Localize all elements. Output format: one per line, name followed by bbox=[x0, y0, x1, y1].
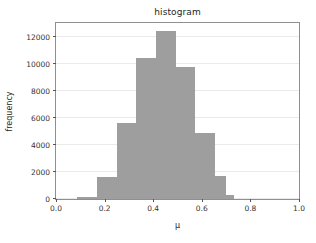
y-tick-mark bbox=[53, 36, 56, 37]
x-tick-mark bbox=[105, 199, 106, 202]
x-tick-mark bbox=[250, 199, 251, 202]
y-axis-label-text: frequency bbox=[5, 91, 14, 131]
histogram-bar bbox=[97, 177, 117, 199]
x-tick-label: 0.8 bbox=[244, 204, 256, 213]
y-tick-label: 8000 bbox=[31, 86, 50, 95]
x-tick-mark bbox=[153, 199, 154, 202]
y-tick-mark bbox=[53, 90, 56, 91]
chart-title: histogram bbox=[55, 7, 300, 17]
y-axis-label: frequency bbox=[2, 22, 16, 200]
histogram-figure: histogram frequency 02000400060008000100… bbox=[0, 0, 316, 243]
y-tick-mark bbox=[53, 63, 56, 64]
y-tick-label: 6000 bbox=[31, 113, 50, 122]
x-tick-label: 0.2 bbox=[99, 204, 111, 213]
x-tick-label: 0.6 bbox=[196, 204, 208, 213]
y-tick-label: 10000 bbox=[26, 59, 50, 68]
plot-inner bbox=[56, 23, 299, 199]
y-tick-mark bbox=[53, 144, 56, 145]
histogram-bar bbox=[156, 31, 176, 199]
y-tick-label: 0 bbox=[45, 195, 50, 204]
y-tick-label: 2000 bbox=[31, 167, 50, 176]
x-tick-mark bbox=[202, 199, 203, 202]
histogram-bar bbox=[226, 195, 234, 199]
gridline-y bbox=[56, 36, 299, 37]
histogram-bar bbox=[77, 197, 97, 199]
y-tick-label: 4000 bbox=[31, 140, 50, 149]
x-tick-label: 1.0 bbox=[293, 204, 305, 213]
histogram-bar bbox=[195, 133, 214, 199]
x-tick-mark bbox=[56, 199, 57, 202]
histogram-bar bbox=[215, 176, 226, 199]
y-tick-mark bbox=[53, 117, 56, 118]
y-tick-label: 12000 bbox=[26, 32, 50, 41]
x-tick-label: 0.4 bbox=[147, 204, 159, 213]
plot-area: 020004000600080001000012000 0.00.20.40.6… bbox=[55, 22, 300, 200]
gridline-y bbox=[56, 63, 299, 64]
histogram-bar bbox=[136, 58, 156, 199]
x-tick-mark bbox=[299, 199, 300, 202]
x-tick-label: 0.0 bbox=[50, 204, 62, 213]
x-axis-label: μ bbox=[55, 221, 300, 230]
histogram-bar bbox=[176, 67, 196, 199]
histogram-bar bbox=[117, 123, 136, 199]
y-tick-mark bbox=[53, 171, 56, 172]
